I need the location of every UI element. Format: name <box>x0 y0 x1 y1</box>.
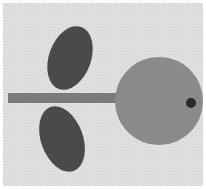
small-dot <box>186 98 196 108</box>
stem <box>8 93 116 103</box>
scene-svg <box>0 0 206 189</box>
image-canvas <box>0 0 206 189</box>
